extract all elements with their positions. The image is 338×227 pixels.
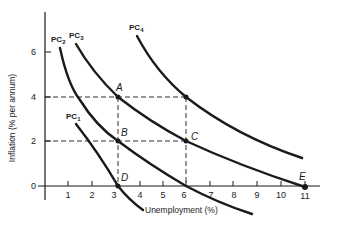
label-d: D xyxy=(121,172,128,183)
x-tick-1: 1 xyxy=(65,190,70,200)
label-a: A xyxy=(115,82,123,93)
points xyxy=(116,95,309,191)
curve-pc1 xyxy=(76,124,143,210)
y-tick-labels: 0 2 4 6 xyxy=(31,47,36,191)
point-c-marker xyxy=(184,139,189,144)
label-c: C xyxy=(191,131,199,142)
point-a-marker xyxy=(116,95,121,100)
curve-pc3 xyxy=(76,44,305,187)
x-tick-9: 9 xyxy=(254,190,259,200)
curves xyxy=(60,36,305,214)
x-tick-11: 11 xyxy=(300,191,309,201)
x-tick-labels: 1 2 3 4 5 6 7 8 9 10 11 xyxy=(65,190,309,201)
point-b-marker xyxy=(116,139,121,144)
label-pc4: PC4 xyxy=(129,23,144,33)
label-pc2: PC2 xyxy=(51,35,66,45)
y-tick-0: 0 xyxy=(31,181,36,191)
x-tick-8: 8 xyxy=(231,190,236,200)
x-axis-title: Unemployment (%) xyxy=(145,205,218,215)
phillips-curve-chart: 0 2 4 6 1 2 3 4 5 6 7 8 9 10 11 Inflatio… xyxy=(0,0,338,227)
x-tick-2: 2 xyxy=(89,190,94,200)
label-e: E xyxy=(299,171,306,182)
x-tick-5: 5 xyxy=(160,190,165,200)
label-b: B xyxy=(121,127,128,138)
point-e-marker xyxy=(302,184,308,190)
x-tick-6: 6 xyxy=(181,190,186,200)
x-tick-10: 10 xyxy=(276,190,286,200)
y-tick-2: 2 xyxy=(31,136,36,146)
y-axis-title: Inflation (% per annum) xyxy=(7,74,17,163)
label-pc1: PC1 xyxy=(66,112,81,122)
x-tick-4: 4 xyxy=(137,190,142,200)
point-pc4-marker xyxy=(184,95,189,100)
y-tick-4: 4 xyxy=(31,92,36,102)
x-tick-3: 3 xyxy=(111,190,116,200)
y-tick-6: 6 xyxy=(31,47,36,57)
point-d-marker xyxy=(116,184,121,189)
y-ticks xyxy=(45,52,51,141)
label-pc3: PC3 xyxy=(69,31,84,41)
